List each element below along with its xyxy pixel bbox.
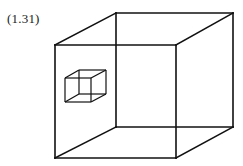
large-cube-edge-connector-bl — [55, 127, 116, 158]
small-cube-edge-connector-tr — [91, 70, 106, 78]
large-cube — [55, 13, 233, 158]
large-cube-edge-connector-br — [176, 127, 233, 158]
small-cube — [65, 70, 106, 102]
large-cube-edge-connector-tl — [55, 13, 116, 45]
small-cube-edge-connector-br — [91, 94, 106, 102]
small-cube-edge-connector-tl — [65, 70, 79, 78]
large-cube-edge-connector-tr — [176, 13, 233, 45]
nested-cubes-diagram — [0, 0, 243, 166]
small-cube-edge-connector-bl — [65, 94, 79, 102]
